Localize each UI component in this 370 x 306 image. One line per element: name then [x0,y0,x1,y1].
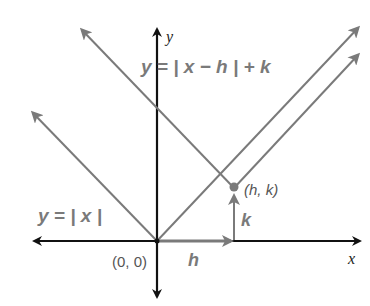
origin-point [155,239,160,244]
translated-equation-label: y = | x − h | + k [141,56,270,78]
x-axis-label: x [348,250,355,268]
vertex-label: (h, k) [244,181,278,198]
h-shift-label: h [188,250,199,271]
y-axis-label: y [166,28,173,46]
origin-label: (0, 0) [112,253,147,270]
parent-equation-label: y = | x | [38,205,102,227]
translated-graph [82,30,358,188]
vertex-point [230,183,239,192]
diagram-canvas: y x y = | x − h | + k y = | x | (0, 0) (… [0,0,370,306]
graph-svg [0,0,370,306]
k-shift-label: k [241,210,251,231]
